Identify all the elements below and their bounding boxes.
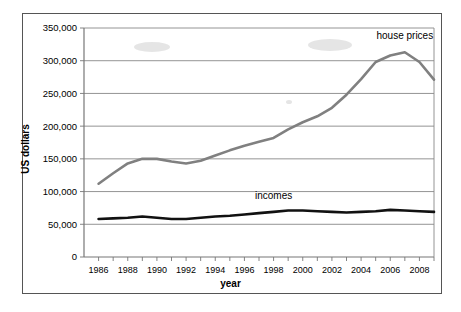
y-tick-label: 0 [72,251,77,262]
x-tick-label: 1992 [176,265,196,275]
series-line-house-prices [99,52,434,184]
y-tick-label: 150,000 [43,153,77,164]
smudge-artifacts [134,39,352,104]
series-label-incomes: incomes [255,190,292,201]
x-tick-label: 1996 [234,265,254,275]
x-tick-label: 1994 [205,265,225,275]
x-tick-label: 2006 [380,265,400,275]
x-tick-label: 1990 [147,265,167,275]
y-tick-label: 200,000 [43,121,77,132]
chart-figure: 050,000100,000150,000200,000250,000300,0… [0,0,461,312]
y-tick-label: 100,000 [43,186,77,197]
x-tick-label: 1998 [264,265,284,275]
x-tick-label: 2000 [293,265,313,275]
series-line-incomes [99,210,434,219]
x-tick-labels-group: 1986198819901992199419961998200020022004… [89,265,430,275]
series-label-house-prices: house prices [376,30,433,41]
y-tick-label: 50,000 [48,219,77,230]
y-tick-label: 250,000 [43,88,77,99]
y-tick-label: 350,000 [43,22,77,33]
y-axis-title: US dollars [20,104,31,194]
y-tick-labels-group: 050,000100,000150,000200,000250,000300,0… [43,22,77,262]
line-chart-canvas: 050,000100,000150,000200,000250,000300,0… [0,0,461,312]
x-tick-label: 1986 [89,265,109,275]
x-tick-label: 2002 [322,265,342,275]
x-tick-label: 2008 [409,265,429,275]
x-tick-label: 1988 [118,265,138,275]
x-axis-title: year [0,278,461,289]
y-tick-label: 300,000 [43,55,77,66]
x-tick-label: 2004 [351,265,371,275]
